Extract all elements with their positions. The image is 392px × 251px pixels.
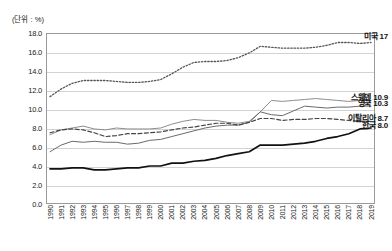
y-axis-tick: 14.0	[28, 67, 42, 76]
y-axis-tick: 0.0	[32, 200, 42, 209]
x-axis-tick: 2002	[179, 205, 186, 220]
chart-container: (단위 : %) 0.02.04.06.08.010.012.014.016.0…	[0, 0, 392, 251]
series-label-미국: 미국 17	[364, 30, 388, 41]
x-axis-tick: 2009	[257, 205, 264, 220]
x-axis-tick: 2013	[301, 205, 308, 220]
x-axis-tick: 2015	[323, 205, 330, 220]
y-axis-tick: 16.0	[28, 48, 42, 57]
y-axis-tick: 6.0	[32, 143, 42, 152]
x-axis-tick: 1992	[69, 205, 76, 220]
x-axis-tick: 2019	[368, 205, 375, 220]
x-axis-tick: 2012	[290, 205, 297, 220]
x-axis-tick: 2001	[168, 205, 175, 220]
x-axis-tick: 2016	[334, 205, 341, 220]
y-axis-tick: 2.0	[32, 181, 42, 190]
x-axis-tick: 2006	[224, 205, 231, 220]
x-axis: 1990199119921993199419951996199719981999…	[46, 205, 375, 251]
y-axis-tick: 10.0	[28, 105, 42, 114]
chart-lines	[46, 33, 375, 204]
x-axis-tick: 1996	[113, 205, 120, 220]
series-label-영국: 영국 10.3	[358, 97, 388, 108]
y-axis-tick: 8.0	[32, 124, 42, 133]
x-axis-tick: 1991	[58, 205, 65, 220]
x-axis-tick: 1998	[135, 205, 142, 220]
y-axis-tick: 12.0	[28, 86, 42, 95]
x-axis-tick: 2004	[201, 205, 208, 220]
x-axis-tick: 2018	[356, 205, 363, 220]
series-line	[50, 43, 371, 97]
x-axis-tick: 2007	[235, 205, 242, 220]
x-axis-tick: 1997	[124, 205, 131, 220]
x-axis-tick: 2017	[345, 205, 352, 220]
x-axis-tick: 1995	[102, 205, 109, 220]
x-axis-tick: 1994	[91, 205, 98, 220]
x-axis-tick: 2011	[279, 205, 286, 219]
series-label-한국: 한국 8.0	[362, 119, 388, 130]
y-axis-tick: 18.0	[28, 29, 42, 38]
x-axis-tick: 2005	[213, 205, 220, 220]
y-axis: 0.02.04.06.08.010.012.014.016.018.0	[0, 0, 46, 251]
x-axis-tick: 2003	[190, 205, 197, 220]
x-axis-tick: 2010	[268, 205, 275, 220]
x-axis-tick: 1999	[146, 205, 153, 220]
series-line	[50, 99, 371, 135]
x-axis-tick: 1990	[47, 205, 54, 220]
x-axis-tick: 2014	[312, 205, 319, 220]
x-axis-tick: 1993	[80, 205, 87, 220]
x-axis-tick: 2000	[157, 205, 164, 220]
y-axis-tick: 4.0	[32, 162, 42, 171]
x-axis-tick: 2008	[246, 205, 253, 220]
